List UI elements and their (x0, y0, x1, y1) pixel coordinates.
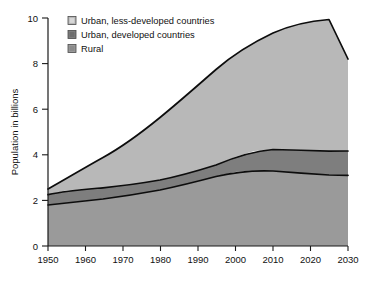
y-tick-label-6: 6 (33, 104, 38, 115)
legend-label-urban-developed: Urban, developed countries (81, 30, 195, 40)
legend-label-urban-less-developed: Urban, less-developed countries (81, 16, 215, 26)
chart-figure: 10 8 6 4 2 0 1950 1960 1970 1980 1990 20… (0, 0, 366, 282)
x-tick-label-2020: 2020 (300, 254, 321, 265)
x-tick-label-1960: 1960 (75, 254, 96, 265)
y-tick-label-2: 2 (33, 195, 38, 206)
x-tick-label-2000: 2000 (225, 254, 246, 265)
y-tick-label-10: 10 (27, 13, 38, 24)
legend-label-rural: Rural (81, 44, 103, 54)
x-tick-label-2010: 2010 (262, 254, 283, 265)
x-tick-label-1950: 1950 (37, 254, 58, 265)
legend-swatch-inner-rural (70, 46, 75, 51)
x-tick-label-1970: 1970 (112, 254, 133, 265)
x-tick-label-1980: 1980 (150, 254, 171, 265)
y-tick-label-8: 8 (33, 58, 38, 69)
x-tick-label-2030: 2030 (337, 254, 358, 265)
legend-item-rural: Rural (68, 44, 103, 54)
y-tick-label-0: 0 (33, 241, 38, 252)
legend-item-urban-less-developed: Urban, less-developed countries (68, 16, 215, 26)
x-tick-label-1990: 1990 (187, 254, 208, 265)
legend-item-urban-developed: Urban, developed countries (68, 30, 195, 40)
population-stacked-area-chart: 10 8 6 4 2 0 1950 1960 1970 1980 1990 20… (0, 0, 366, 282)
y-tick-label-4: 4 (33, 149, 38, 160)
legend-swatch-inner-urban-less-developed (70, 18, 75, 23)
legend-swatch-inner-urban-developed (70, 32, 75, 37)
y-axis-title: Population in billions (9, 88, 20, 175)
